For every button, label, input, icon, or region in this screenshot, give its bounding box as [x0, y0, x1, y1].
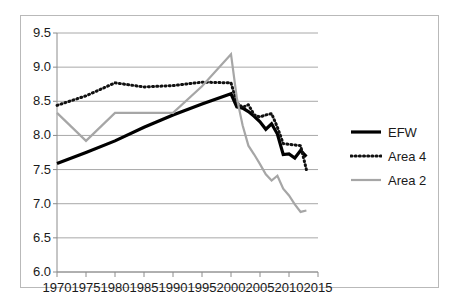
y-tick-label: 8.0: [18, 128, 51, 141]
x-tick-label: 2015: [298, 281, 338, 294]
y-tick-label: 9.5: [18, 26, 51, 39]
y-tick-label: 6.0: [18, 265, 51, 278]
y-tick-label: 7.0: [18, 197, 51, 210]
chart-root: 9.59.08.58.07.57.06.56.0 197019751980198…: [0, 0, 458, 305]
legend-label: Area 4: [388, 149, 426, 164]
y-tick-label: 6.5: [18, 231, 51, 244]
solid-line-swatch: [350, 125, 382, 139]
y-tick-label: 8.5: [18, 94, 51, 107]
legend-label: Area 2: [388, 173, 426, 188]
chart-legend: EFWArea 4Area 2: [350, 120, 450, 192]
legend-item-efw[interactable]: EFW: [350, 120, 450, 144]
y-tick-label: 7.5: [18, 163, 51, 176]
gray-line-swatch: [350, 173, 382, 187]
legend-item-area-4[interactable]: Area 4: [350, 144, 450, 168]
legend-label: EFW: [388, 125, 417, 140]
legend-item-area-2[interactable]: Area 2: [350, 168, 450, 192]
dotted-line-swatch: [350, 149, 382, 163]
series-line-area-2: [57, 54, 306, 212]
y-tick-label: 9.0: [18, 60, 51, 73]
